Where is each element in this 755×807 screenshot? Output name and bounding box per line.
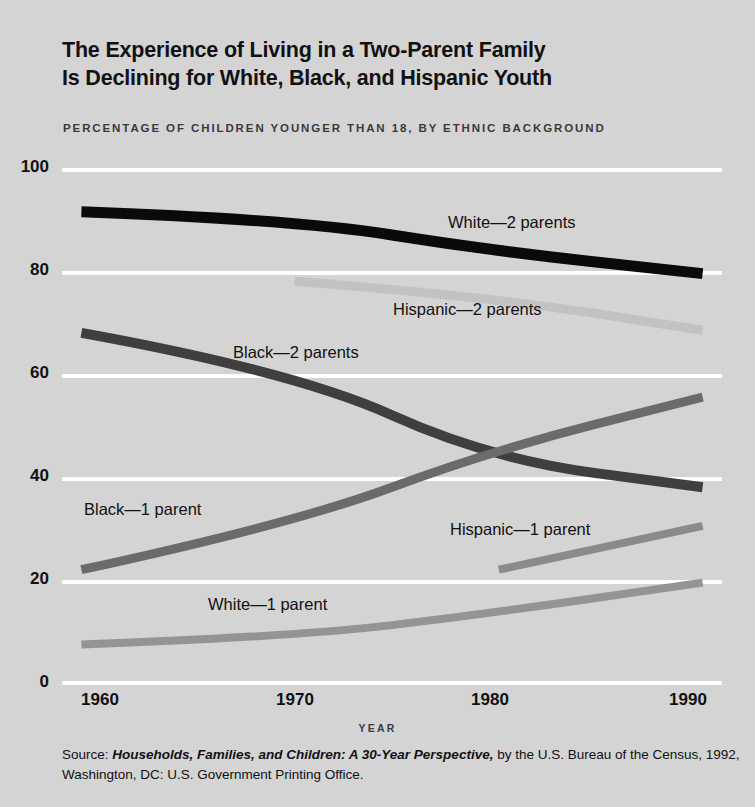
x-tick-1980: 1980 <box>471 690 509 710</box>
series-label-hispanic-1-parent: Hispanic—1 parent <box>450 520 590 539</box>
series-label-hispanic-2-parents: Hispanic—2 parents <box>393 300 542 319</box>
series-label-black-2-parents: Black—2 parents <box>233 343 359 362</box>
x-tick-1970: 1970 <box>276 690 314 710</box>
series-label-white-1-parent: White—1 parent <box>208 595 327 614</box>
title-line-2: Is Declining for White, Black, and Hispa… <box>62 64 722 92</box>
series-lines <box>62 168 722 683</box>
series-label-black-1-parent: Black—1 parent <box>84 500 201 519</box>
y-tick-100: 100 <box>0 157 49 177</box>
plot-area <box>62 168 722 683</box>
chart-page: The Experience of Living in a Two-Parent… <box>0 0 755 807</box>
y-tick-80: 80 <box>0 260 49 280</box>
y-tick-20: 20 <box>0 569 49 589</box>
source-prefix: Source: <box>62 747 112 762</box>
chart-subtitle: PERCENTAGE OF CHILDREN YOUNGER THAN 18, … <box>63 122 606 134</box>
line-white-1-parent <box>81 583 702 645</box>
line-white-2-parents <box>81 212 702 274</box>
x-axis-title: YEAR <box>0 722 755 734</box>
y-tick-40: 40 <box>0 466 49 486</box>
source-title: Households, Families, and Children: A 30… <box>112 747 493 762</box>
source-note: Source: Households, Families, and Childr… <box>62 745 742 785</box>
y-tick-60: 60 <box>0 363 49 383</box>
title-line-1: The Experience of Living in a Two-Parent… <box>62 38 546 62</box>
page-title: The Experience of Living in a Two-Parent… <box>62 36 722 92</box>
line-black-2-parents <box>81 333 702 488</box>
y-tick-0: 0 <box>0 672 49 692</box>
x-tick-1990: 1990 <box>669 690 707 710</box>
x-tick-1960: 1960 <box>81 690 119 710</box>
series-label-white-2-parents: White—2 parents <box>448 213 575 232</box>
